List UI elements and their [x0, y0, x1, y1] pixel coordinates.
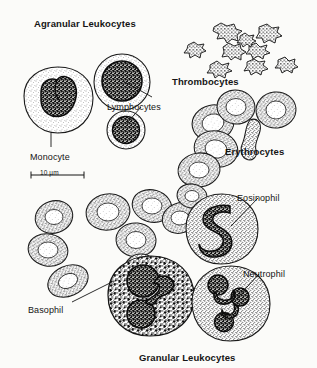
heading-granular-leukocytes: Granular Leukocytes	[139, 352, 235, 363]
scale-bar-label: 10 µm	[40, 169, 59, 176]
heading-thrombocytes: Thrombocytes	[172, 76, 239, 87]
heading-agranular-leukocytes: Agranular Leukocytes	[34, 18, 136, 29]
basophil-cell	[108, 256, 194, 336]
blood-cells-figure: Agranular Leukocytes Thrombocytes Lympho…	[0, 0, 317, 368]
label-basophil: Basophil	[28, 305, 63, 315]
thrombocyte	[184, 42, 206, 58]
lymphocyte-lower	[107, 111, 145, 149]
thrombocyte	[213, 23, 242, 43]
monocyte-cell	[24, 67, 93, 133]
thrombocyte	[275, 57, 298, 73]
label-lymphocytes: Lymphocytes	[107, 102, 161, 112]
label-eosinophil: Eosinophil	[237, 193, 280, 203]
heading-erythrocytes: Erythrocytes	[225, 146, 284, 157]
thrombocyte-cluster	[184, 23, 298, 78]
thrombocyte	[256, 24, 282, 43]
label-neutrophil: Neutrophil	[243, 269, 285, 279]
thrombocyte	[244, 59, 268, 75]
eosinophil-cell	[186, 194, 258, 264]
lymphocyte-nucleus	[113, 117, 140, 144]
label-monocyte: Monocyte	[30, 152, 70, 162]
lymphocyte-nucleus	[102, 61, 142, 101]
